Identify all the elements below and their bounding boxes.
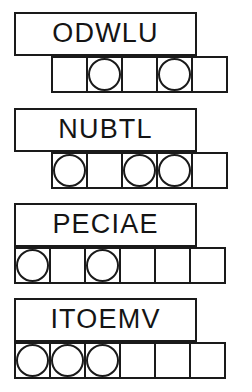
scrambled-word-text: ITOEMV bbox=[50, 306, 160, 333]
circle-icon bbox=[88, 58, 121, 91]
scrambled-word-text: PECIAE bbox=[52, 211, 158, 238]
scrambled-word-box: ODWLU bbox=[14, 12, 197, 56]
answer-cell[interactable] bbox=[84, 342, 121, 379]
scrambled-word-text: NUBTL bbox=[58, 116, 153, 143]
puzzle-sheet: ODWLU NUBTL PECIAE ITOEMV bbox=[0, 0, 252, 392]
answer-cell[interactable] bbox=[119, 342, 156, 379]
answer-cell[interactable] bbox=[51, 56, 88, 93]
answer-cell[interactable] bbox=[86, 152, 123, 189]
circle-icon bbox=[16, 344, 49, 377]
answer-cell[interactable] bbox=[154, 247, 191, 284]
answer-cell-row bbox=[14, 342, 226, 379]
answer-cell[interactable] bbox=[51, 152, 88, 189]
answer-cell[interactable] bbox=[86, 56, 123, 93]
scrambled-word-text: ODWLU bbox=[52, 20, 159, 47]
answer-cell[interactable] bbox=[156, 56, 193, 93]
answer-cell[interactable] bbox=[156, 152, 193, 189]
answer-cell-row bbox=[51, 152, 228, 189]
circle-icon bbox=[51, 344, 84, 377]
circle-icon bbox=[86, 249, 119, 282]
answer-cell[interactable] bbox=[49, 342, 86, 379]
scrambled-word-box: PECIAE bbox=[14, 203, 197, 247]
answer-cell[interactable] bbox=[121, 152, 158, 189]
answer-cell[interactable] bbox=[121, 56, 158, 93]
circle-icon bbox=[123, 154, 156, 187]
scrambled-word-box: ITOEMV bbox=[14, 298, 197, 342]
circle-icon bbox=[86, 344, 119, 377]
answer-cell[interactable] bbox=[189, 342, 226, 379]
answer-cell[interactable] bbox=[189, 247, 226, 284]
answer-cell[interactable] bbox=[49, 247, 86, 284]
answer-cell[interactable] bbox=[84, 247, 121, 284]
circle-icon bbox=[53, 154, 86, 187]
answer-cell-row bbox=[51, 56, 228, 93]
answer-cell[interactable] bbox=[14, 342, 51, 379]
circle-icon bbox=[158, 154, 191, 187]
circle-icon bbox=[158, 58, 191, 91]
answer-cell[interactable] bbox=[119, 247, 156, 284]
circle-icon bbox=[16, 249, 49, 282]
scrambled-word-box: NUBTL bbox=[14, 108, 197, 152]
answer-cell[interactable] bbox=[154, 342, 191, 379]
answer-cell[interactable] bbox=[191, 56, 228, 93]
answer-cell-row bbox=[14, 247, 226, 284]
answer-cell[interactable] bbox=[191, 152, 228, 189]
answer-cell[interactable] bbox=[14, 247, 51, 284]
